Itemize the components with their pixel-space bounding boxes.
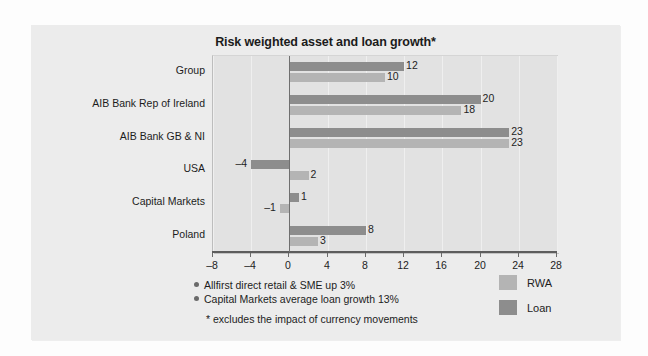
bar-value-label: 23 [511, 127, 523, 136]
gridline-24 [519, 56, 520, 252]
x-tick-label: 12 [397, 259, 409, 271]
x-tick [480, 253, 481, 257]
legend-item-rwa[interactable]: RWA [499, 275, 552, 290]
x-tick [556, 253, 557, 257]
bar-rwa-capital-markets [280, 204, 290, 213]
x-tick-label: 24 [512, 259, 524, 271]
category-label: AIB Bank GB & NI [120, 131, 205, 142]
x-tick [250, 253, 251, 257]
annotation-row: Capital Markets average loan growth 13% [194, 292, 494, 306]
x-tick [403, 253, 404, 257]
bar-rwa-aib-bank-gb-ni [289, 139, 509, 148]
annotation-text: Capital Markets average loan growth 13% [204, 292, 399, 306]
plot-area [212, 55, 558, 252]
x-tick-label: –8 [206, 259, 218, 271]
bullet-icon [194, 282, 199, 287]
bar-value-label: 8 [368, 225, 374, 234]
gridline-4 [328, 56, 329, 252]
legend-item-loan[interactable]: Loan [499, 300, 552, 315]
gridline-20 [481, 56, 482, 252]
bar-loan-poland [289, 226, 365, 235]
annotation-text: Allfirst direct retail & SME up 3% [204, 278, 355, 292]
legend-label: Loan [527, 302, 551, 314]
bar-value-label: 18 [463, 105, 475, 114]
bar-rwa-aib-bank-rep-of-ireland [289, 106, 461, 115]
x-axis-line [212, 251, 557, 253]
bar-rwa-poland [289, 237, 318, 246]
gridline-8 [366, 56, 367, 252]
gridline--4 [251, 56, 252, 252]
x-tick [288, 253, 289, 257]
chart-title: Risk weighted asset and loan growth* [31, 35, 620, 49]
bar-loan-aib-bank-rep-of-ireland [289, 95, 480, 104]
annotation-row: Allfirst direct retail & SME up 3% [194, 278, 494, 292]
bar-rwa-group [289, 73, 385, 82]
x-tick-label: 0 [285, 259, 291, 271]
x-tick [212, 253, 213, 257]
x-tick [518, 253, 519, 257]
category-label: Group [176, 65, 205, 76]
bar-value-label: 20 [483, 94, 495, 103]
x-tick-label: 16 [435, 259, 447, 271]
category-label: Poland [172, 229, 205, 240]
category-label: Capital Markets [132, 196, 205, 207]
bar-loan-usa [251, 160, 289, 169]
x-tick-label: 8 [362, 259, 368, 271]
x-tick-label: 20 [474, 259, 486, 271]
bar-value-label: –4 [236, 159, 248, 168]
gridline-16 [442, 56, 443, 252]
bar-loan-capital-markets [289, 193, 299, 202]
bar-value-label: 10 [387, 72, 399, 81]
x-tick-label: 28 [550, 259, 562, 271]
legend-swatch-icon [499, 275, 517, 290]
chart-annotations: Allfirst direct retail & SME up 3%Capita… [194, 278, 494, 306]
x-tick-label: –4 [244, 259, 256, 271]
x-tick [441, 253, 442, 257]
chart-legend: RWALoan [499, 275, 552, 325]
bar-value-label: –1 [264, 203, 276, 212]
chart-footnote: * excludes the impact of currency moveme… [206, 313, 418, 325]
plot-inner [213, 56, 557, 252]
chart-card: Risk weighted asset and loan growth* –8–… [31, 25, 620, 340]
chart-screenshot: Risk weighted asset and loan growth* –8–… [0, 0, 648, 356]
bar-value-label: 1 [301, 192, 307, 201]
bar-rwa-usa [289, 171, 308, 180]
bar-value-label: 23 [511, 138, 523, 147]
x-tick [365, 253, 366, 257]
bar-loan-aib-bank-gb-ni [289, 128, 509, 137]
x-tick [327, 253, 328, 257]
bar-value-label: 2 [311, 170, 317, 179]
gridline--8 [213, 56, 214, 252]
x-tick-label: 4 [324, 259, 330, 271]
x-axis-shadow [214, 253, 559, 254]
bullet-icon [194, 296, 199, 301]
gridline-28 [557, 56, 558, 252]
bar-value-label: 3 [320, 236, 326, 245]
category-label: AIB Bank Rep of Ireland [92, 98, 205, 109]
category-label: USA [183, 163, 205, 174]
gridline-12 [404, 56, 405, 252]
legend-label: RWA [527, 277, 552, 289]
legend-swatch-icon [499, 300, 517, 315]
bar-value-label: 12 [406, 61, 418, 70]
zero-axis-line [289, 56, 290, 252]
